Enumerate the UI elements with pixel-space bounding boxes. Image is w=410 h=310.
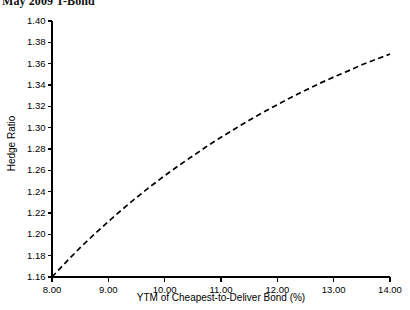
y-tick-label: 1.22 [12,207,46,218]
y-tick-label: 1.16 [12,271,46,282]
y-tick-label: 1.32 [12,100,46,111]
y-tick-label: 1.24 [12,186,46,197]
plot-area [0,0,410,310]
y-tick-label: 1.38 [12,36,46,47]
hedge-ratio-curve [52,54,390,277]
y-tick-label: 1.36 [12,58,46,69]
y-axis-title: Hedge Ratio [6,104,17,184]
x-axis-title: YTM of Cheapest-to-Deliver Bond (%) [52,292,390,303]
axis-lines [52,21,390,277]
y-tick-label: 1.40 [12,15,46,26]
y-tick-label: 1.26 [12,164,46,175]
y-tick-label: 1.20 [12,228,46,239]
y-tick-label: 1.30 [12,122,46,133]
y-tick-label: 1.34 [12,79,46,90]
axis-ticks [48,21,391,282]
chart-figure: May 2009 T-Bond 1.401.381.361.341.321.30… [0,0,410,310]
y-tick-label: 1.18 [12,250,46,261]
y-tick-label: 1.28 [12,143,46,154]
